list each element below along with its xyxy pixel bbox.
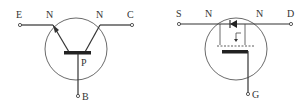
label-c: C xyxy=(127,9,134,20)
collector-terminal xyxy=(130,23,133,26)
emitter-arrow-icon xyxy=(53,25,59,33)
base-bar xyxy=(64,51,91,55)
label-p: P xyxy=(81,57,87,68)
collector-line xyxy=(85,25,100,52)
drain-terminal xyxy=(289,22,292,25)
label-s: S xyxy=(176,8,182,19)
mosfet-symbol: S N N D G xyxy=(176,8,294,100)
label-n-emitter: N xyxy=(46,9,53,20)
label-n-drain: N xyxy=(256,8,263,19)
gate-terminal xyxy=(246,92,249,95)
label-e: E xyxy=(16,9,22,20)
channel-arrow-icon xyxy=(234,39,238,42)
gate-bar xyxy=(222,50,248,54)
label-g: G xyxy=(252,89,259,100)
base-terminal xyxy=(76,94,79,97)
label-b: B xyxy=(82,91,89,102)
bjt-symbol: E N N C P B xyxy=(16,9,134,102)
body-diode-icon xyxy=(230,20,237,28)
label-n-collector: N xyxy=(96,9,103,20)
label-d: D xyxy=(287,8,294,19)
label-n-source: N xyxy=(205,8,212,19)
transistor-diagram: E N N C P B S N N D G xyxy=(0,0,307,105)
source-terminal xyxy=(177,22,180,25)
emitter-terminal xyxy=(18,23,21,26)
